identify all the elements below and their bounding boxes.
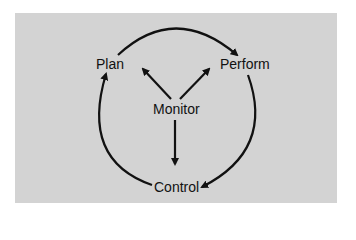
arc-perform-to-control — [202, 75, 255, 187]
node-plan: Plan — [96, 57, 124, 71]
arrow-monitor-to-perform — [180, 69, 209, 99]
arc-plan-to-perform — [118, 29, 237, 56]
arrow-monitor-to-plan — [143, 69, 171, 99]
node-control: Control — [154, 180, 199, 194]
arc-control-to-plan — [99, 74, 152, 185]
node-monitor: Monitor — [153, 102, 200, 116]
node-perform: Perform — [220, 57, 270, 71]
